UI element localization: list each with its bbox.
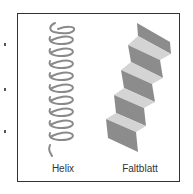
helix-coil-icon [49, 23, 74, 156]
helix-label: Helix [44, 163, 82, 174]
pleated-sheet-icon [106, 23, 171, 152]
sheet-label: Faltblatt [112, 163, 168, 174]
